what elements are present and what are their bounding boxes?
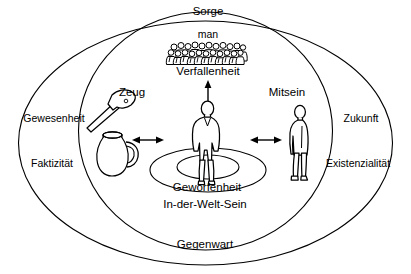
label-zukunft: Zukunft [343, 113, 378, 124]
arrow-left-right-icon-right [250, 137, 282, 144]
label-man: man [198, 29, 218, 40]
label-in-der-welt-sein: In-der-Welt-Sein [163, 199, 247, 211]
arrow-left-right-icon-left [132, 137, 164, 144]
person-front-figure-icon [192, 101, 219, 184]
label-geworfenheit: Geworfenheit [173, 182, 241, 194]
label-existenzialitaet: Existenzialität [326, 158, 390, 169]
label-sorge: Sorge [193, 6, 224, 18]
label-zeug: Zeug [119, 87, 145, 99]
diagram-canvas: Sorge man Verfallenheit Zeug Mitsein Gew… [0, 0, 411, 274]
label-gewesenheit: Gewesenheit [23, 113, 84, 124]
jug-icon [97, 132, 138, 176]
label-verfallenheit: Verfallenheit [176, 66, 239, 78]
person-profile-figure-icon [290, 105, 308, 180]
diagram-vector-layer [0, 0, 411, 274]
crowd-figures-icon [166, 42, 247, 65]
label-mitsein: Mitsein [269, 87, 305, 99]
label-faktizitaet: Faktizität [31, 158, 73, 169]
label-gegenwart: Gegenwart [177, 239, 233, 251]
